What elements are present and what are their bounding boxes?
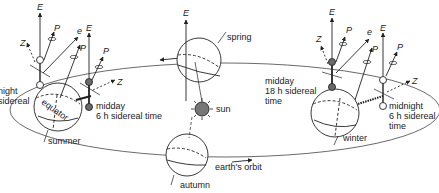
summer-midnight-label: night xyxy=(0,86,18,96)
svg-text:e: e xyxy=(77,26,82,36)
summer-midnight-top-ball xyxy=(37,57,44,64)
winter-midnight-p-axis xyxy=(386,52,397,76)
svg-text:P: P xyxy=(372,44,378,54)
winter-midday-p-axis xyxy=(336,37,345,62)
svg-text:E: E xyxy=(329,7,336,17)
summer-midday-bottom-ball xyxy=(86,104,93,111)
winter-midnight-top-ball xyxy=(380,77,387,84)
winter-midnight-connector xyxy=(358,96,383,104)
autumn-leader xyxy=(171,175,174,185)
summer-midnight-p-axis xyxy=(44,32,54,60)
svg-text:P: P xyxy=(80,43,86,53)
svg-text:sidereal: sidereal xyxy=(0,96,30,106)
svg-text:P: P xyxy=(397,42,403,52)
svg-text:Z: Z xyxy=(19,38,26,48)
svg-text:P: P xyxy=(54,23,60,33)
svg-text:E: E xyxy=(37,2,44,12)
earths-orbit-label: earth's orbit xyxy=(215,162,262,172)
winter-midday-top-ball xyxy=(329,59,336,66)
winter-e-axis xyxy=(336,39,369,73)
winter-label: winter xyxy=(342,133,367,143)
summer-label: summer xyxy=(48,136,81,146)
summer-midnight-z-axis xyxy=(27,43,35,62)
svg-text:P: P xyxy=(346,25,352,35)
svg-text:e: e xyxy=(367,27,372,37)
svg-text:P: P xyxy=(103,46,109,56)
winter-globe-p-axis xyxy=(355,48,372,100)
winter-midnight-z-axis xyxy=(387,81,410,92)
spring-globe xyxy=(177,38,221,102)
svg-text:E: E xyxy=(380,23,387,33)
spring-label: spring xyxy=(227,32,252,42)
svg-text:time: time xyxy=(389,121,406,131)
autumn-label: autumn xyxy=(180,180,210,190)
svg-text:Z: Z xyxy=(315,34,322,44)
svg-text:18 h sidereal: 18 h sidereal xyxy=(265,86,317,96)
svg-text:Z: Z xyxy=(411,76,418,86)
winter-midnight-label: midnight xyxy=(389,101,424,111)
sun-label: sun xyxy=(216,104,231,114)
spring-e-axis-label: E xyxy=(183,8,190,18)
summer-midnight-bottom-ball xyxy=(37,82,44,89)
spring-leader xyxy=(218,32,226,43)
svg-text:6 h sidereal: 6 h sidereal xyxy=(389,111,436,121)
summer-midday-z-axis xyxy=(93,80,115,90)
summer-e-axis xyxy=(43,37,78,73)
svg-text:time: time xyxy=(265,96,282,106)
svg-text:E: E xyxy=(86,23,93,33)
winter-midday-bottom-ball xyxy=(329,84,336,91)
summer-midday-label: midday xyxy=(96,101,126,111)
winter-midday-label: midday xyxy=(265,76,295,86)
winter-midnight-bottom-ball xyxy=(380,103,387,110)
svg-text:Z: Z xyxy=(116,77,123,87)
winter-midday-z-axis xyxy=(321,46,328,64)
summer-midday-top-ball xyxy=(86,79,93,86)
winter-globe xyxy=(311,89,359,137)
svg-text:6 h sidereal time: 6 h sidereal time xyxy=(96,111,162,121)
autumn-globe xyxy=(166,117,208,176)
earth-orbit-sidereal-diagram: sun E spring autumn earth's orbit equato… xyxy=(0,0,439,193)
